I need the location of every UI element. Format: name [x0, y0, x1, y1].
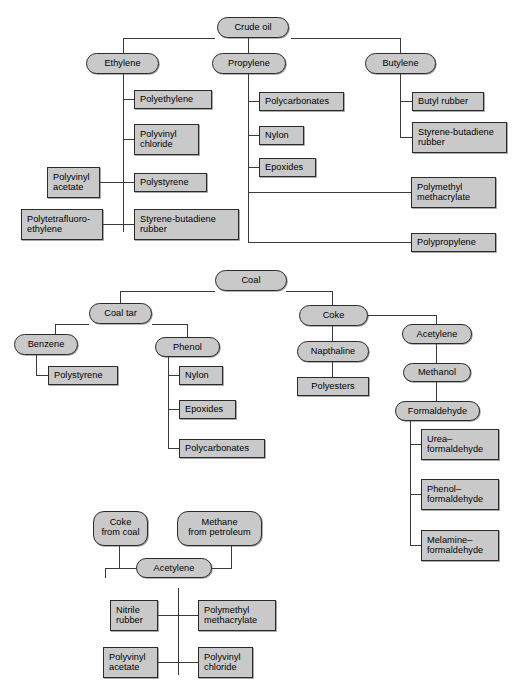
node-polyethylene[interactable]: Polyethylene — [134, 90, 212, 109]
stub-polyvinylacetate — [100, 182, 123, 183]
node-phenol-formaldehyde[interactable]: Phenol– formaldehyde — [421, 479, 499, 510]
node-methanol[interactable]: Methanol — [403, 363, 471, 382]
node-acetylene-2[interactable]: Acetylene — [402, 324, 472, 344]
node-coke-from-coal[interactable]: Coke from coal — [93, 511, 148, 546]
node-label: Phenol — [173, 342, 202, 353]
node-label: Polycarbonates — [265, 96, 329, 107]
node-polyesters[interactable]: Polyesters — [297, 377, 369, 396]
node-polyvinyl-acetate[interactable]: Polyvinyl acetate — [47, 167, 100, 198]
node-acetylene-3[interactable]: Acetylene — [136, 558, 212, 578]
node-label: Acetylene — [417, 329, 458, 340]
node-label: Ethylene — [104, 58, 140, 69]
node-label-line1: Polyvinyl — [109, 652, 152, 662]
node-label: Polystyrene — [54, 370, 103, 381]
node-polycarbonates[interactable]: Polycarbonates — [259, 92, 344, 111]
stub-polyethylene — [123, 99, 134, 100]
node-label: Epoxides — [265, 162, 303, 173]
node-label: Acetylene — [154, 563, 195, 574]
node-label: Crude oil — [234, 22, 271, 33]
node-polycarbonates-2[interactable]: Polycarbonates — [179, 439, 265, 458]
connector-crudeoil-right — [291, 38, 401, 39]
node-label: Formaldehyde — [408, 406, 467, 417]
node-label: Nylon — [265, 130, 289, 141]
node-label: Butylene — [382, 58, 418, 69]
node-methane-from-petroleum[interactable]: Methane from petroleum — [177, 511, 262, 546]
node-label-line1: Coke — [100, 517, 141, 527]
node-label: Polycarbonates — [185, 443, 249, 454]
node-label-line1: Polyvinyl — [204, 652, 247, 662]
node-coke[interactable]: Coke — [299, 305, 368, 326]
connector-polypropylene — [248, 242, 411, 243]
node-coal[interactable]: Coal — [215, 270, 287, 291]
node-phenol[interactable]: Phenol — [155, 337, 220, 357]
node-label-line1: Nitrile — [116, 605, 152, 615]
stub-polystyrene2 — [36, 375, 48, 376]
node-label: Coke — [323, 310, 345, 321]
node-styrene-butadiene-rubber[interactable]: Styrene-butadiene rubber — [134, 209, 239, 240]
connector-coke-acetylene — [368, 315, 437, 316]
diagram-canvas: Crude oil Ethylene Propylene Butylene Po… — [0, 0, 518, 696]
node-label: Coal — [241, 275, 260, 286]
node-crude-oil[interactable]: Crude oil — [217, 17, 289, 38]
stub-phenol-formaldehyde — [410, 494, 421, 495]
connector-coal-right — [286, 291, 333, 292]
node-formaldehyde[interactable]: Formaldehyde — [395, 401, 480, 421]
node-epoxides-2[interactable]: Epoxides — [179, 400, 236, 419]
node-polystyrene-2[interactable]: Polystyrene — [48, 366, 118, 385]
node-benzene[interactable]: Benzene — [14, 334, 78, 355]
node-polypropylene[interactable]: Polypropylene — [411, 233, 496, 252]
node-polymethyl-methacrylate-3[interactable]: Polymethyl methacrylate — [198, 600, 276, 631]
node-polymethyl-methacrylate[interactable]: Polymethyl methacrylate — [411, 177, 496, 208]
node-polytetrafluoroethylene[interactable]: Polytetrafluoro- ethylene — [21, 209, 103, 240]
node-melamine-formaldehyde[interactable]: Melamine– formaldehyde — [421, 530, 499, 561]
spine-benzene — [36, 354, 37, 375]
node-label: Napthaline — [311, 346, 355, 357]
node-nitrile-rubber[interactable]: Nitrile rubber — [110, 600, 158, 631]
connector-coke-drop — [332, 291, 333, 305]
node-polyvinyl-chloride-3[interactable]: Polyvinyl chloride — [198, 647, 253, 678]
node-label: Benzene — [28, 339, 65, 350]
node-polyvinyl-chloride[interactable]: Polyvinyl chloride — [134, 124, 199, 155]
node-label: Polyesters — [311, 381, 354, 392]
connector-cokecoal-elbow — [105, 568, 106, 578]
connector-ethylene-drop — [123, 38, 124, 54]
node-label-line1: Polymethyl — [417, 182, 490, 192]
node-urea-formaldehyde[interactable]: Urea– formaldehyde — [421, 429, 499, 460]
node-propylene[interactable]: Propylene — [212, 53, 286, 74]
connector-cokecoal-down — [119, 546, 120, 568]
node-label: Nylon — [185, 370, 209, 381]
connector-coaltar-drop — [120, 291, 121, 303]
node-nylon[interactable]: Nylon — [259, 126, 304, 145]
node-label: Propylene — [228, 58, 270, 69]
spine-butylene — [400, 70, 401, 138]
node-label-line2: rubber — [116, 615, 152, 625]
node-butylene[interactable]: Butylene — [365, 53, 436, 74]
node-napthaline[interactable]: Napthaline — [297, 341, 369, 362]
node-coal-tar[interactable]: Coal tar — [89, 303, 152, 324]
node-label-line2: from coal — [100, 527, 141, 537]
connector-methane-acetylene — [212, 568, 232, 569]
stub-urea-formaldehyde — [410, 444, 421, 445]
node-polyvinyl-acetate-3[interactable]: Polyvinyl acetate — [103, 647, 158, 678]
stub-epoxides2 — [168, 409, 179, 410]
node-label-line2: formaldehyde — [427, 545, 493, 555]
node-epoxides[interactable]: Epoxides — [259, 158, 316, 177]
connector-crudeoil-left — [123, 38, 215, 39]
node-label-line2: methacrylate — [204, 615, 270, 625]
node-label-line2: acetate — [53, 182, 94, 192]
node-nylon-2[interactable]: Nylon — [179, 366, 223, 385]
node-styrene-butadiene-rubber-2[interactable]: Styrene-butadiene rubber — [412, 122, 507, 153]
node-polystyrene[interactable]: Polystyrene — [134, 173, 207, 192]
node-ethylene[interactable]: Ethylene — [86, 53, 159, 74]
node-label-line2: chloride — [140, 139, 193, 149]
node-label-line1: Methane — [184, 517, 255, 527]
stub-sbr2 — [400, 137, 412, 138]
connector-methanol-formaldehyde — [436, 382, 437, 401]
node-label-line2: formaldehyde — [427, 444, 493, 454]
node-label-line2: from petroleum — [184, 527, 255, 537]
node-label-line2: ethylene — [27, 224, 97, 234]
node-label-line2: methacrylate — [417, 192, 490, 202]
connector-propylene-drop — [248, 38, 249, 54]
node-butyl-rubber[interactable]: Butyl rubber — [412, 92, 484, 111]
stub-melamine-formaldehyde — [410, 545, 421, 546]
